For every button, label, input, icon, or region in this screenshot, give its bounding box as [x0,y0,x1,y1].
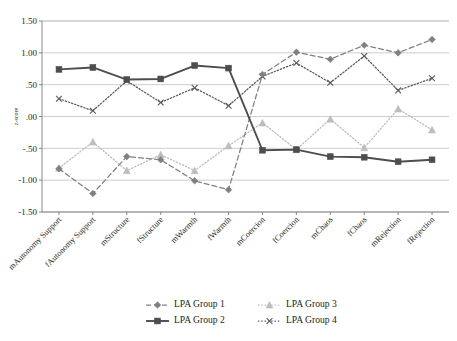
data-point-s1-11 [429,36,436,43]
series-4-group [56,53,435,114]
data-point-s2-7 [293,147,299,153]
x-tick-label-11: fRejection [405,214,437,246]
data-point-s3-10 [395,105,402,112]
data-point-s3-9 [361,144,368,151]
legend-label-2: LPA Group 2 [174,314,225,325]
chart-legend: LPA Group 1LPA Group 2LPA Group 3LPA Gro… [146,298,337,325]
legend-label-1: LPA Group 1 [174,298,225,309]
chart-figure: 1.501.00.50.00-.50-1.00-1.50 mAutonomy S… [0,0,457,341]
data-point-s3-5 [225,142,232,149]
data-point-s3-1 [89,138,96,145]
y-axis-title: z-score [13,108,19,126]
series-line-3 [59,109,432,171]
legend-item-4[interactable]: LPA Group 4 [258,314,337,325]
x-tick-label-10: mRejection [369,214,403,248]
series-3-group [55,105,435,173]
data-point-s2-4 [192,63,198,69]
x-tick-label-8: mChaos [309,215,335,241]
series-2-group [56,63,435,165]
y-tick-labels-group: 1.501.00.50.00-.50-1.00-1.50 [18,16,37,217]
y-tick-label-6: -1.50 [18,207,37,217]
data-point-s4-3 [158,100,164,106]
data-point-s1-legend [154,302,161,309]
line-chart: 1.501.00.50.00-.50-1.00-1.50 mAutonomy S… [0,0,457,341]
data-point-s2-legend [155,318,161,324]
data-point-s4-7 [293,60,299,66]
x-tick-label-5: fWarmth [206,214,234,242]
data-point-s4-9 [361,53,367,59]
y-tick-label-5: -1.00 [18,175,37,185]
data-point-s4-10 [395,87,401,93]
data-point-s1-9 [361,42,368,49]
data-point-s2-1 [90,65,96,71]
x-tick-label-2: mStructure [99,215,132,248]
data-point-s2-9 [361,154,367,160]
data-point-s1-4 [191,178,198,185]
legend-label-3: LPA Group 3 [286,298,337,309]
data-point-s2-8 [327,154,333,160]
y-tick-label-2: .50 [26,80,38,90]
data-point-s2-10 [395,159,401,165]
series-line-2 [59,66,432,162]
data-point-s2-6 [260,147,266,153]
data-point-s2-3 [158,76,164,82]
x-tick-label-7: fCoercion [271,214,302,245]
legend-item-1[interactable]: LPA Group 1 [146,298,225,309]
y-tick-label-1: 1.00 [21,48,37,58]
x-tick-label-3: fStructure [135,215,165,245]
data-point-s2-0 [56,66,62,72]
data-point-s4-5 [226,103,232,109]
y-tick-label-4: -.50 [23,144,38,154]
x-tick-label-6: mCoercion [234,214,267,247]
x-tick-label-4: mWarmth [169,214,199,244]
y-axis-title-group: z-score [13,108,19,126]
data-point-s2-11 [429,157,435,163]
data-point-s4-4 [192,85,198,91]
data-point-s2-5 [226,65,232,71]
x-tick-label-9: fChaos [345,215,368,238]
data-point-s1-5 [225,186,232,193]
y-tick-label-3: .00 [26,112,38,122]
data-point-s3-6 [259,119,266,126]
y-tick-label-0: 1.50 [21,16,37,26]
legend-item-2[interactable]: LPA Group 2 [146,314,225,325]
data-point-s1-10 [395,50,402,57]
data-point-s4-1 [90,108,96,114]
data-point-s2-2 [124,77,130,83]
legend-item-3[interactable]: LPA Group 3 [258,298,337,309]
legend-label-4: LPA Group 4 [286,314,337,325]
x-tick-labels-group: mAutonomy SupportfAutonomy SupportmStruc… [7,214,437,271]
series-line-4 [59,56,432,111]
data-point-s1-6 [259,71,266,78]
data-point-s1-8 [327,56,334,63]
data-point-s4-11 [429,75,435,81]
data-point-s3-11 [429,126,436,133]
data-point-s1-7 [293,49,300,56]
data-point-s4-0 [56,96,62,102]
